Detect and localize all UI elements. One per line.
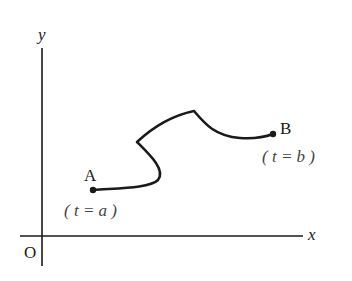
point-b-dot [270,131,276,137]
point-b-param: ( t = b ) [262,147,315,166]
origin-label: O [24,243,36,262]
diagram-canvas: y x O A ( t = a ) B ( t = b ) [0,0,352,281]
y-axis-label: y [36,25,46,44]
point-a-param: ( t = a ) [64,201,117,220]
point-b-label: B [280,119,291,138]
curve-path [93,111,273,190]
point-a-label: A [84,166,97,185]
point-a-dot [90,187,96,193]
x-axis-label: x [307,225,316,244]
